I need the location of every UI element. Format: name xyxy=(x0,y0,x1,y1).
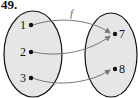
point-1 xyxy=(29,23,33,27)
label-2: 2 xyxy=(20,45,26,59)
point-8 xyxy=(113,67,117,71)
label-3: 3 xyxy=(20,71,26,85)
point-2 xyxy=(29,50,33,54)
label-7: 7 xyxy=(119,27,125,41)
label-8: 8 xyxy=(119,62,125,76)
point-3 xyxy=(29,76,33,80)
function-label: f xyxy=(70,7,75,19)
diagram-canvas: 1 2 3 7 8 f xyxy=(0,0,138,98)
label-1: 1 xyxy=(20,18,26,32)
mapping-diagram: 49. 1 2 3 7 8 f xyxy=(0,0,138,98)
point-7 xyxy=(113,32,117,36)
codomain-set xyxy=(85,13,137,97)
